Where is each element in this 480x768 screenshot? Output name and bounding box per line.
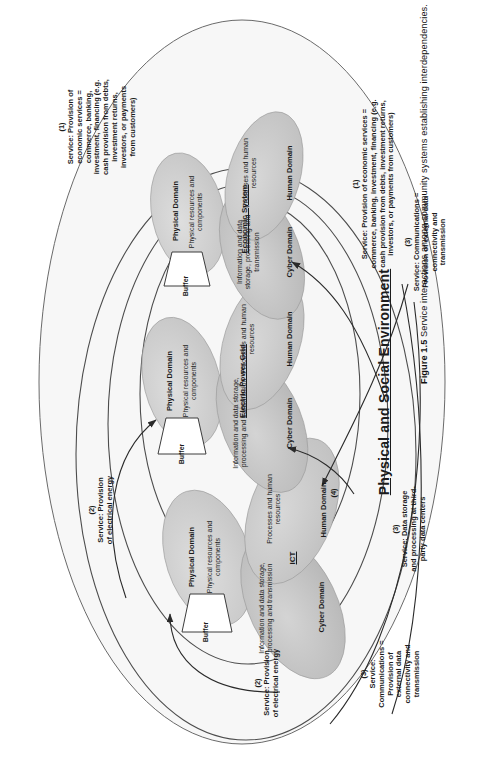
- economic-cyber-domain-label: Cyber Domain: [286, 210, 295, 294]
- diagram-canvas-wrapper: Physical and Social Environment ICT Phys…: [30, 14, 450, 754]
- service-label-3-left: (3) Service:Communications =Provision of…: [360, 620, 422, 728]
- service-label-2-lower: (2) Service: Provisionof electrical ener…: [254, 628, 281, 738]
- economic-physical-domain-content: Physical resources and components: [188, 172, 205, 252]
- service-label-2-upper: (2) Service: Provisionof electrical ener…: [88, 454, 115, 566]
- ict-system-name: ICT: [288, 530, 297, 586]
- service-label-3-data-text: Service: Data storageand processing at t…: [401, 454, 428, 604]
- power-physical-domain-content: Physical resources and components: [182, 338, 199, 424]
- ict-cyber-domain-label: Cyber Domain: [318, 560, 327, 654]
- ict-physical-domain-label: Physical Domain: [188, 510, 197, 604]
- diagram-canvas: Physical and Social Environment ICT Phys…: [30, 14, 450, 754]
- service-label-1-mid-text: Service: Provision of economic services …: [361, 66, 396, 302]
- service-label-4: (4): [330, 480, 339, 506]
- power-buffer-label: Buffer: [178, 436, 186, 472]
- economic-buffer-label: Buffer: [182, 268, 190, 304]
- figure-root: Physical and Social Environment ICT Phys…: [0, 0, 480, 768]
- power-cyber-domain-content: Information and data storage, processing…: [232, 376, 249, 470]
- economic-human-domain-content: Processes and human resources: [242, 136, 259, 210]
- ict-human-domain-content: Processes and human resources: [266, 466, 283, 552]
- figure-caption: Figure 1.5 Service interactions among co…: [419, 0, 429, 384]
- service-label-3-data-centers: (3) Service: Data storageand processing …: [392, 454, 427, 604]
- power-cyber-domain-label: Cyber Domain: [286, 380, 295, 466]
- economic-cyber-domain-content: Information and data storage, processing…: [236, 208, 261, 296]
- ict-human-domain-label: Human Domain: [320, 466, 329, 554]
- service-label-2-lower-text: Service: Provisionof electrical energy: [263, 628, 281, 738]
- power-physical-domain-label: Physical Domain: [166, 340, 175, 422]
- figure-number: Figure 1.5: [419, 340, 429, 384]
- power-human-domain-content: Processes and human resources: [240, 300, 257, 378]
- ict-physical-domain-content: Physical resources and components: [206, 510, 223, 604]
- economic-physical-domain-label: Physical Domain: [172, 172, 181, 250]
- service-label-1-top-text: Service: Provision ofeconomic services =…: [67, 48, 138, 206]
- service-label-1-top: (1) Service: Provision ofeconomic servic…: [58, 48, 138, 206]
- ict-buffer-label: Buffer: [202, 614, 210, 650]
- economic-human-domain-label: Human Domain: [286, 136, 295, 210]
- service-label-1-mid: (1) Service: Provision of economic servi…: [352, 66, 396, 302]
- service-label-2-upper-text: Service: Provisionof electrical energy: [97, 454, 115, 566]
- power-human-domain-label: Human Domain: [286, 300, 295, 378]
- figure-caption-text: Service interactions among community sys…: [419, 4, 429, 337]
- service-label-3-left-text: Service:Communications =Provision ofexte…: [369, 620, 422, 728]
